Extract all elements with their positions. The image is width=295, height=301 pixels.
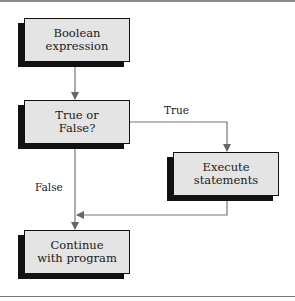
process-box: Continue with program (24, 230, 130, 274)
decision-box: True or False? (24, 100, 130, 144)
node-label: Execute statements (194, 161, 258, 187)
node-execute-statements: Execute statements (173, 152, 279, 196)
process-box: Boolean expression (24, 18, 130, 62)
edge-label-false: False (35, 181, 63, 193)
node-boolean-expression: Boolean expression (24, 18, 130, 62)
node-continue: Continue with program (24, 230, 130, 274)
node-label: Continue with program (37, 239, 117, 265)
bottom-rule (0, 296, 295, 297)
process-box: Execute statements (173, 152, 279, 196)
edge-label-true: True (164, 104, 189, 116)
node-label: Boolean expression (46, 27, 109, 53)
node-label: True or False? (55, 109, 98, 135)
edge-decision-to-execute (129, 122, 227, 151)
node-decision: True or False? (24, 100, 130, 144)
